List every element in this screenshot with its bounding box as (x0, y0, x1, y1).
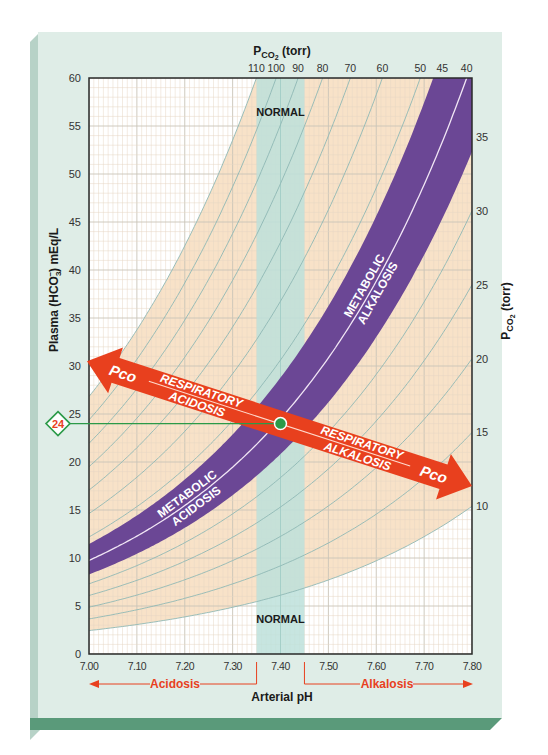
top-pco2-tick-label: 80 (317, 62, 329, 74)
davenport-nomogram-card: 0510152025303540455055607.007.107.207.30… (0, 0, 548, 755)
acidosis-label: Acidosis (150, 677, 200, 691)
alkalosis-label: Alkalosis (361, 677, 414, 691)
x-tick-label: 7.50 (319, 660, 338, 672)
x-tick-label: 7.30 (223, 660, 242, 672)
y-tick-label: 55 (69, 120, 81, 132)
y-tick-label: 15 (69, 504, 81, 516)
right-pco2-tick-label: 15 (476, 426, 488, 438)
x-axis-title: Arterial pH (251, 690, 312, 704)
top-pco2-tick-label: 60 (377, 62, 389, 74)
y-tick-label: 40 (69, 264, 81, 276)
y-tick-label: 20 (69, 456, 81, 468)
right-pco2-tick-label: 25 (476, 279, 488, 291)
right-pco2-tick-label: 35 (476, 131, 488, 143)
top-pco2-tick-label: 45 (436, 62, 448, 74)
svg-text:24: 24 (52, 418, 65, 430)
x-tick-label: 7.60 (367, 660, 386, 672)
y-tick-label: 30 (69, 360, 81, 372)
top-pco2-tick-label: 40 (461, 62, 473, 74)
y-tick-label: 50 (69, 168, 81, 180)
x-tick-label: 7.80 (463, 660, 482, 672)
right-pco2-tick-label: 10 (476, 500, 488, 512)
top-pco2-tick-label: 70 (345, 62, 357, 74)
chart-canvas: 0510152025303540455055607.007.107.207.30… (0, 0, 548, 755)
y-axis-title: Plasma (HCO3−) mEq/L (46, 228, 63, 352)
y-tick-label: 0 (75, 648, 81, 660)
plot-area (89, 0, 472, 654)
y-tick-label: 35 (69, 312, 81, 324)
right-pco2-tick-label: 30 (476, 205, 488, 217)
normal-label-top: NORMAL (256, 106, 305, 118)
x-tick-label: 7.20 (176, 660, 195, 672)
card-bottom-edge (30, 718, 502, 730)
x-tick-label: 7.40 (271, 660, 290, 672)
x-tick-label: 7.00 (80, 660, 99, 672)
x-tick-label: 7.70 (415, 660, 434, 672)
y-tick-label: 5 (75, 600, 81, 612)
x-tick-label: 7.10 (128, 660, 147, 672)
top-pco2-tick-label: 90 (292, 62, 304, 74)
normal-point-marker (275, 418, 287, 430)
y-tick-label: 25 (69, 408, 81, 420)
right-pco2-tick-label: 20 (476, 353, 488, 365)
top-pco2-tick-label: 110 (248, 62, 265, 74)
y-tick-label: 10 (69, 552, 81, 564)
y-tick-label: 45 (69, 216, 81, 228)
y-tick-label: 60 (69, 72, 81, 84)
normal-label-bottom: NORMAL (256, 613, 305, 625)
top-pco2-tick-label: 50 (414, 62, 426, 74)
top-pco2-tick-label: 100 (267, 62, 285, 74)
